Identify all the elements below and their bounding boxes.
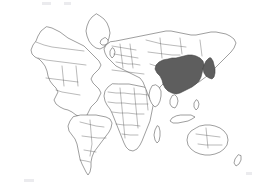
world-map-svg (0, 0, 258, 184)
world-map-figure (0, 0, 258, 184)
region-australia (187, 125, 228, 155)
